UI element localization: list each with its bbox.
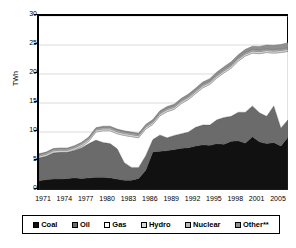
legend-label: Other** [243,221,269,229]
stacked-area-plot [39,16,288,190]
legend-item-other[interactable]: Other** [235,221,269,229]
legend-item-hydro[interactable]: Hydro [141,221,171,229]
legend-swatch-icon [185,222,191,228]
y-axis-label: TWh [12,71,19,86]
legend-item-gas[interactable]: Gas [104,221,126,229]
x-axis: 1971197419771980198319861989199219951998… [37,191,288,209]
chart-area: TWh 051015202530 19711974197719801983198… [0,0,296,200]
x-tick-label: 2005 [266,195,290,203]
legend-swatch-icon [33,222,39,228]
legend-label: Coal [41,221,57,229]
chart-screenshot: TWh 051015202530 19711974197719801983198… [0,0,296,248]
plot-frame [37,14,288,190]
chart-legend: CoalOilGasHydroNuclearOther** [22,215,280,234]
y-axis: TWh 051015202530 [14,0,37,200]
legend-swatch-icon [235,222,241,228]
legend-item-oil[interactable]: Oil [72,221,90,229]
legend-swatch-icon [104,222,110,228]
legend-label: Oil [80,221,90,229]
legend-swatch-icon [141,222,147,228]
legend-swatch-icon [72,222,78,228]
legend-label: Nuclear [193,221,221,229]
legend-item-coal[interactable]: Coal [33,221,57,229]
legend-label: Gas [112,221,126,229]
legend-item-nuclear[interactable]: Nuclear [185,221,221,229]
legend-label: Hydro [149,221,171,229]
area-series-group [39,43,288,190]
